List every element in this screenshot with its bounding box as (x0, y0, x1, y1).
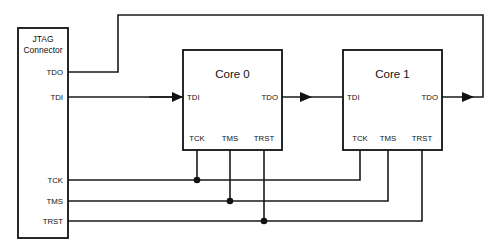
jtag-pin-label-tdo: TDO (47, 68, 63, 77)
core0-title: Core 0 (215, 68, 250, 80)
core0-pin-label-tdo: TDO (262, 93, 278, 102)
jtag-pin-label-trst: TRST (43, 217, 64, 226)
core1-title: Core 1 (375, 68, 410, 80)
arrowhead-into-core0-tdi (150, 92, 183, 102)
wire-tck-bus (68, 150, 360, 180)
junction-dot-tck (194, 177, 201, 184)
arrowhead-core1-tdo-return (462, 92, 474, 102)
junction-dot-tms (227, 198, 234, 205)
jtag-diagram: JTAG Connector TDO TDI TCK TMS TRST Core… (0, 0, 503, 247)
core0-pin-label-tms: TMS (222, 134, 238, 143)
junction-dot-trst (261, 218, 268, 225)
arrowhead-into-core1-tdi (300, 92, 312, 102)
jtag-connector-box[interactable] (18, 28, 68, 238)
jtag-schematic-svg: JTAG Connector TDO TDI TCK TMS TRST Core… (0, 0, 503, 247)
core1-pin-label-tms: TMS (380, 134, 396, 143)
core0-pin-label-tck: TCK (189, 134, 205, 143)
jtag-pin-label-tdi: TDI (50, 93, 63, 102)
core1-pin-label-tdo: TDO (422, 93, 438, 102)
jtag-connector-title-line1: JTAG (32, 34, 53, 44)
core1-pin-label-tck: TCK (352, 134, 368, 143)
wire-trst-bus (68, 150, 422, 221)
core1-pin-label-trst: TRST (412, 134, 433, 143)
wire-tms-bus (68, 150, 388, 201)
jtag-pin-label-tms: TMS (47, 197, 63, 206)
core1-pin-label-tdi: TDI (347, 93, 360, 102)
core0-pin-label-trst: TRST (254, 134, 275, 143)
jtag-pin-label-tck: TCK (47, 176, 63, 185)
jtag-connector-title-line2: Connector (23, 45, 62, 55)
core0-pin-label-tdi: TDI (187, 93, 200, 102)
